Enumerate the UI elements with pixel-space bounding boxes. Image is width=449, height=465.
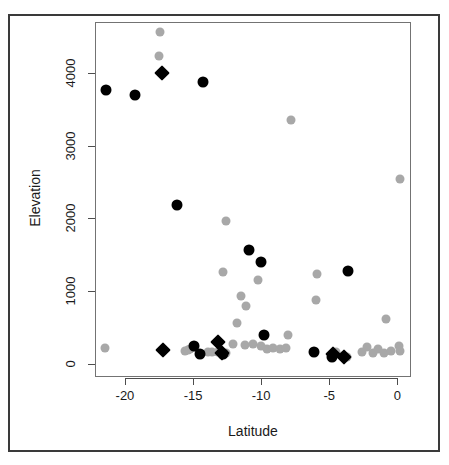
y-axis-tick-label: 4000 xyxy=(63,58,78,87)
data-point xyxy=(100,343,109,352)
figure-canvas: 01000200030004000-20-15-10-50 Elevation … xyxy=(0,0,449,465)
y-axis-tick xyxy=(88,146,95,147)
data-point xyxy=(171,200,182,211)
data-point xyxy=(232,319,241,328)
x-axis-tick xyxy=(329,378,330,385)
y-axis-tick xyxy=(88,73,95,74)
data-point xyxy=(242,302,251,311)
data-point xyxy=(281,344,290,353)
y-axis-tick xyxy=(88,291,95,292)
data-point xyxy=(236,292,245,301)
data-point xyxy=(396,346,405,355)
data-point xyxy=(284,330,293,339)
data-point xyxy=(287,116,296,125)
data-point xyxy=(396,175,405,184)
y-axis-tick-label: 2000 xyxy=(63,204,78,233)
x-axis-tick-label: -10 xyxy=(252,388,271,403)
x-axis-tick xyxy=(397,378,398,385)
y-axis-tick xyxy=(88,364,95,365)
data-point xyxy=(156,28,165,37)
data-point xyxy=(197,76,208,87)
data-point xyxy=(155,52,164,61)
data-point xyxy=(311,295,320,304)
x-axis-tick xyxy=(261,378,262,385)
plot-panel xyxy=(95,22,411,377)
data-point xyxy=(243,245,254,256)
data-point xyxy=(343,265,354,276)
scatter-plot: 01000200030004000-20-15-10-50 Elevation … xyxy=(0,0,449,465)
y-axis-tick-label: 3000 xyxy=(63,131,78,160)
y-axis-tick-label: 1000 xyxy=(63,277,78,306)
x-axis-tick xyxy=(193,378,194,385)
data-point xyxy=(313,269,322,278)
data-point xyxy=(386,347,395,356)
data-point xyxy=(194,349,205,360)
data-point xyxy=(228,339,237,348)
x-axis-tick-label: 0 xyxy=(394,388,401,403)
data-point xyxy=(382,314,391,323)
data-point xyxy=(129,90,140,101)
data-point xyxy=(258,329,269,340)
data-point xyxy=(219,267,228,276)
x-axis-tick xyxy=(125,378,126,385)
data-point xyxy=(221,217,230,226)
x-axis-line xyxy=(125,378,397,379)
y-axis-title: Elevation xyxy=(27,169,43,227)
data-point xyxy=(309,347,320,358)
data-point xyxy=(100,85,111,96)
data-point xyxy=(254,276,263,285)
y-axis-tick xyxy=(88,218,95,219)
y-axis-tick-label: 0 xyxy=(63,360,78,367)
x-axis-tick-label: -20 xyxy=(116,388,135,403)
x-axis-tick-label: -5 xyxy=(323,388,335,403)
data-point xyxy=(256,257,267,268)
x-axis-title: Latitude xyxy=(228,423,278,439)
x-axis-tick-label: -15 xyxy=(184,388,203,403)
